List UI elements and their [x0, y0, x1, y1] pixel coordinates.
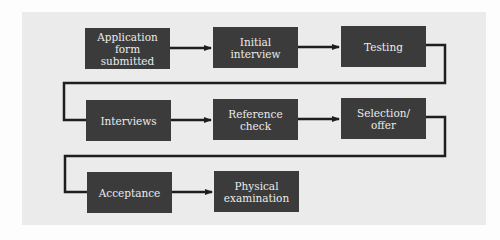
- step-label: Reference check: [228, 108, 282, 132]
- step-application-form-submitted: Application form submitted: [85, 28, 170, 69]
- step-label: Testing: [364, 41, 403, 53]
- step-physical-examination: Physical examination: [214, 171, 299, 212]
- step-label: Physical examination: [224, 180, 289, 204]
- step-label: Interviews: [100, 115, 156, 127]
- step-selection-offer: Selection/ offer: [341, 98, 426, 139]
- step-label: Selection/ offer: [357, 107, 410, 131]
- step-label: Acceptance: [99, 187, 161, 199]
- step-label: Application form submitted: [88, 31, 167, 67]
- step-acceptance: Acceptance: [87, 172, 172, 213]
- step-label: Initial interview: [230, 36, 280, 60]
- step-testing: Testing: [341, 26, 426, 67]
- step-interviews: Interviews: [86, 100, 171, 141]
- step-initial-interview: Initial interview: [213, 27, 298, 68]
- step-reference-check: Reference check: [213, 99, 298, 140]
